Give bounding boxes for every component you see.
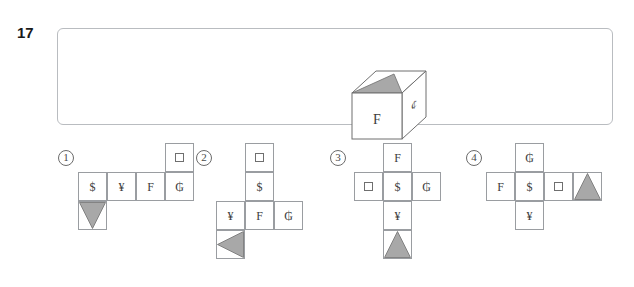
option-1-cell-currency: ₲ (165, 172, 194, 201)
answer-options: 1 $ ¥ F ₲ 2 $ (0, 140, 634, 270)
option-3-cell-square (354, 172, 383, 201)
option-3-cell-triangle (383, 230, 412, 259)
cell-label: ₲ (525, 152, 534, 164)
cell-label: ₲ (284, 210, 293, 222)
option-1-net: $ ¥ F ₲ (78, 140, 203, 260)
option-4-cell-triangle (573, 172, 602, 201)
cell-label: ¥ (119, 181, 125, 193)
triangle-down-icon (79, 202, 106, 229)
small-square-icon (554, 182, 563, 191)
option-4-cell-yen: ¥ (515, 201, 544, 230)
option-2-net: $ ¥ F ₲ (216, 140, 316, 265)
option-2-cell-square (245, 143, 274, 172)
option-3-net: F $ ₲ ¥ (354, 140, 454, 265)
option-2-cell-yen: ¥ (216, 201, 245, 230)
option-2-cell-f: F (245, 201, 274, 230)
cube-front-face-label: F (373, 112, 381, 127)
cell-label: F (497, 181, 504, 193)
option-4-cell-currency: ₲ (515, 143, 544, 172)
triangle-left-icon (217, 231, 244, 258)
option-1-cell-dollar: $ (78, 172, 107, 201)
option-1-cell-yen: ¥ (107, 172, 136, 201)
option-2-cell-dollar: $ (245, 172, 274, 201)
cell-label: F (394, 152, 401, 164)
cell-label: $ (90, 181, 96, 193)
option-3-cell-f: F (383, 143, 412, 172)
triangle-up-icon (574, 173, 601, 200)
cell-label: ₲ (175, 181, 184, 193)
option-4-cell-f: F (486, 172, 515, 201)
prompt-cube-figure: F ¢ (348, 67, 430, 143)
cell-label: ¥ (527, 210, 533, 222)
option-3-cell-dollar: $ (383, 172, 412, 201)
option-4-cell-dollar: $ (515, 172, 544, 201)
option-3-label: 3 (330, 150, 346, 166)
cell-label: $ (257, 181, 263, 193)
option-1-cell-triangle (78, 201, 107, 230)
cell-label: ₲ (422, 181, 431, 193)
option-1-label: 1 (58, 150, 74, 166)
cell-label: F (147, 181, 154, 193)
question-prompt-panel: F ¢ (57, 28, 613, 125)
option-2-label: 2 (196, 150, 212, 166)
option-2-cell-triangle (216, 230, 245, 259)
cell-label: F (256, 210, 263, 222)
option-3-cell-currency: ₲ (412, 172, 441, 201)
option-2-cell-currency: ₲ (274, 201, 303, 230)
option-1-cell-square (165, 143, 194, 172)
question-number: 17 (17, 24, 34, 41)
cell-label: $ (395, 181, 401, 193)
option-4-cell-square (544, 172, 573, 201)
option-3-cell-yen: ¥ (383, 201, 412, 230)
cell-label: ¥ (228, 210, 234, 222)
small-square-icon (175, 153, 184, 162)
cube-svg: F ¢ (348, 67, 430, 143)
cell-label: $ (527, 181, 533, 193)
cell-label: ¥ (395, 210, 401, 222)
small-square-icon (364, 182, 373, 191)
option-4-net: ₲ F $ ¥ (486, 140, 616, 240)
option-1-cell-f: F (136, 172, 165, 201)
small-square-icon (255, 153, 264, 162)
option-4-label: 4 (466, 150, 482, 166)
triangle-up-icon (384, 231, 411, 258)
